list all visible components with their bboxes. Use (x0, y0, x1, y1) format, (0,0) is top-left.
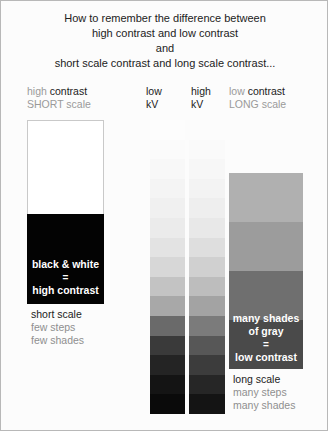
wedge-high-kv-band-7 (189, 238, 225, 258)
column-4-header: low contrast LONG scale (229, 85, 286, 111)
wedge-high-kv-band-9 (189, 277, 225, 297)
column-4-caption-line-1: many shades (233, 312, 300, 324)
wedge-low-kv-band-6 (150, 218, 185, 238)
column-4-caption-line-4: low contrast (235, 351, 297, 363)
column-1-caption-line-3: high contrast (32, 284, 99, 296)
wedge-low-kv-band-11 (150, 316, 185, 336)
column-4-header-subtitle: LONG scale (229, 98, 286, 111)
column-1-header-strong: high (27, 85, 47, 97)
wedge-high-kv-band-11 (189, 316, 225, 336)
wedge-high-kv-band-10 (189, 296, 225, 316)
column-1-dark-caption: black & white = high contrast (27, 258, 104, 297)
wedge-low-kv-band-9 (150, 277, 185, 297)
wedge-low-kv-band-8 (150, 257, 185, 277)
column-3-header-line1: high (191, 85, 211, 98)
column-1-below-strong: short scale (31, 308, 84, 321)
column-1-below-caption: short scale few steps few shades (31, 308, 84, 347)
wedge-high-kv (189, 120, 225, 414)
wedge-high-kv-band-13 (189, 355, 225, 375)
column-4-below-faint-1: many steps (233, 386, 295, 399)
wedge-high-kv-band-3 (189, 159, 225, 179)
wedge-low-kv-band-13 (150, 355, 185, 375)
heading-line-4: short scale contrast and long scale cont… (1, 56, 328, 71)
column-1-header-rest: contrast (47, 85, 87, 97)
wedge-low-kv-band-7 (150, 238, 185, 258)
wedge-low-kv-band-10 (150, 296, 185, 316)
column-4-below-faint-2: many shades (233, 399, 295, 412)
wedge-low-kv-band-14 (150, 375, 185, 395)
column-2-header-line1: low (146, 85, 162, 98)
wedge-high-kv-band-1 (189, 120, 225, 140)
column-4-below-caption: long scale many steps many shades (233, 373, 295, 412)
wedge-low-kv-band-12 (150, 336, 185, 356)
wedge-high-kv-band-2 (189, 140, 225, 160)
wedge-low-kv-band-5 (150, 198, 185, 218)
wedge-low-kv-band-4 (150, 179, 185, 199)
column-4-caption-line-3: = (263, 339, 269, 350)
column-1-header-subtitle: SHORT scale (27, 98, 91, 111)
column-4-caption-line-2: of gray (248, 325, 283, 337)
column-1-below-faint-2: few shades (31, 334, 84, 347)
column-4-header-rest: contrast (245, 85, 285, 97)
wedge-high-kv-band-8 (189, 257, 225, 277)
column-3-header: high kV (191, 85, 211, 111)
heading-line-1: How to remember the difference between (1, 11, 328, 26)
wedge-high-kv-band-12 (189, 336, 225, 356)
wedge-high-kv-band-14 (189, 375, 225, 395)
column-1-header: high contrast SHORT scale (27, 85, 91, 111)
wedge-high-kv-band-15 (189, 394, 225, 414)
wedge-high-kv-band-5 (189, 198, 225, 218)
wedge-low-kv (150, 120, 185, 414)
wedge-low-kv-band-1 (150, 120, 185, 140)
contrast-scale-poster: How to remember the difference between h… (0, 0, 328, 431)
heading-line-3: and (1, 41, 328, 56)
column-3-header-line2: kV (191, 98, 211, 111)
column-4-below-strong: long scale (233, 373, 295, 386)
wedge-low-kv-band-3 (150, 159, 185, 179)
wedge-low-kv-band-2 (150, 140, 185, 160)
wedge-long-scale-band-1 (229, 173, 303, 222)
wedge-1-band-white (27, 120, 104, 214)
column-2-header: low kV (146, 85, 162, 111)
column-4-dark-caption: many shades of gray = low contrast (229, 312, 303, 364)
column-4-header-strong: low (229, 85, 245, 97)
heading-line-2: high contrast and low contrast (1, 26, 328, 41)
wedge-high-kv-band-6 (189, 218, 225, 238)
column-1-caption-line-2: = (63, 272, 69, 283)
wedge-high-kv-band-4 (189, 179, 225, 199)
poster-heading: How to remember the difference between h… (1, 11, 328, 71)
wedge-long-scale-band-2 (229, 222, 303, 271)
column-1-below-faint-1: few steps (31, 321, 84, 334)
column-1-caption-line-1: black & white (32, 258, 99, 270)
wedge-low-kv-band-15 (150, 394, 185, 414)
column-2-header-line2: kV (146, 98, 162, 111)
